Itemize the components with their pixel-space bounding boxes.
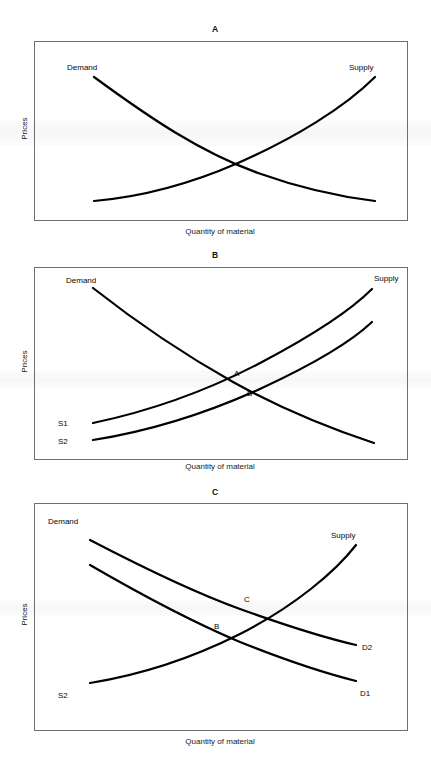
figure-page: A Prices Quantity of material Demand Sup… xyxy=(0,0,431,760)
panel-c-curves xyxy=(0,0,431,760)
panel-c-supply-curve xyxy=(90,545,356,683)
panel-c: C Prices Quantity of material Demand Sup… xyxy=(0,0,431,760)
panel-c-d1-curve xyxy=(90,565,356,681)
panel-c-d2-curve xyxy=(90,540,356,645)
